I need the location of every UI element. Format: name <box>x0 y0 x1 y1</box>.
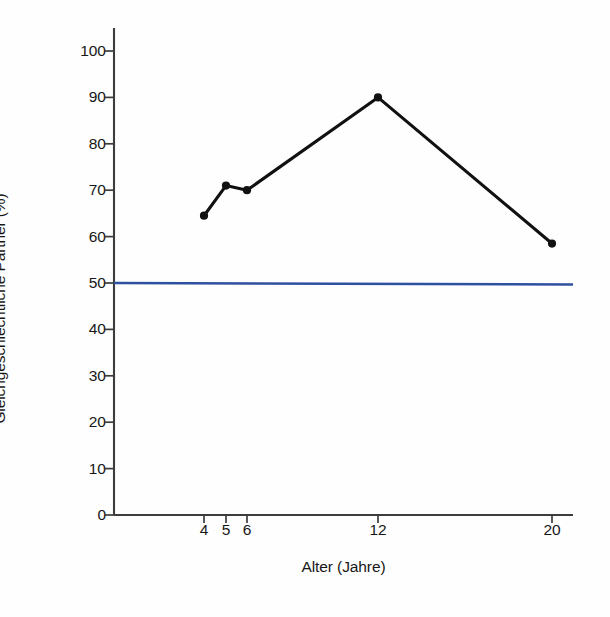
data-point-marker <box>243 186 251 194</box>
series-line <box>204 97 552 243</box>
data-point-marker <box>200 212 208 220</box>
chart-figure: Gleichgeschlechtliche Partner (%) 010203… <box>0 0 610 617</box>
x-axis-ticks <box>204 515 552 523</box>
plot-area <box>0 0 610 617</box>
axes <box>114 28 573 515</box>
data-point-marker <box>222 181 230 189</box>
y-axis-ticks <box>105 51 114 515</box>
data-point-marker <box>548 239 556 247</box>
data-point-markers <box>200 93 556 247</box>
reference-line-50-percent <box>114 283 573 285</box>
data-series-line <box>204 97 552 243</box>
data-point-marker <box>374 93 382 101</box>
reference-line <box>114 283 573 285</box>
